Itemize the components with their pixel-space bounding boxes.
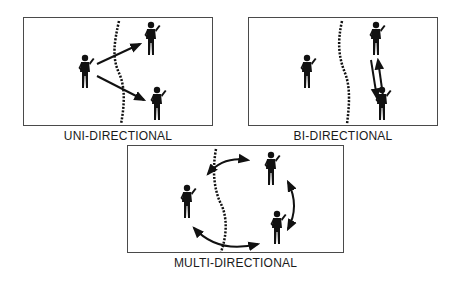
figure-left [301, 55, 317, 88]
figure-bottom-right [376, 87, 392, 120]
receiver-figure-bottom [151, 87, 167, 120]
sender-figure [79, 55, 95, 88]
bi-directional-label: BI-DIRECTIONAL [248, 129, 438, 143]
arrow-up [97, 44, 140, 64]
figure-bottom-right [271, 211, 287, 244]
multi-directional-illustration [128, 146, 345, 254]
boundary-line [339, 21, 349, 124]
arrow-bottom [194, 228, 258, 247]
figure-top-right [370, 22, 386, 55]
figure-top-right [265, 152, 281, 185]
bi-directional-illustration [249, 18, 439, 127]
arrow-down [371, 60, 377, 98]
bi-directional-panel [248, 17, 438, 126]
uni-directional-panel [23, 17, 213, 126]
boundary-line [114, 21, 123, 124]
receiver-figure-top [145, 22, 161, 55]
uni-directional-label: UNI-DIRECTIONAL [23, 129, 213, 143]
multi-directional-panel [127, 145, 344, 253]
figure-left [181, 185, 197, 218]
arrow-right [288, 182, 294, 229]
multi-directional-label: MULTI-DIRECTIONAL [127, 256, 344, 270]
uni-directional-illustration [24, 18, 214, 127]
